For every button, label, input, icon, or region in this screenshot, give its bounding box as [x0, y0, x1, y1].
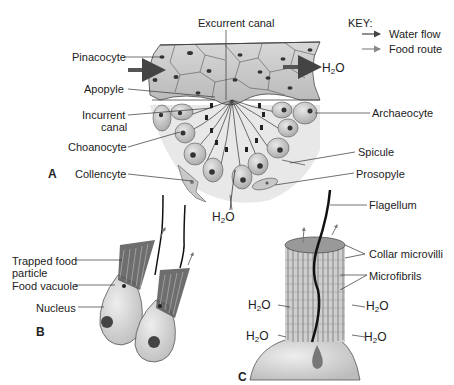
label-incurrent-canal-line1: Incurrent — [82, 109, 125, 121]
panel-b-illustration — [100, 195, 193, 362]
label-archaeocyte: Archaeocyte — [372, 107, 433, 119]
label-collar-microvilli: Collar microvilli — [369, 248, 443, 260]
label-h2o-c-right-upper: H2O — [366, 300, 388, 316]
sponge-diagram — [0, 0, 454, 385]
label-h2o-out: H2O — [322, 62, 344, 78]
key-food-route: Food route — [389, 43, 442, 55]
label-incurrent-canal-line2: canal — [101, 121, 127, 133]
label-spicule: Spicule — [358, 146, 394, 158]
label-nucleus: Nucleus — [36, 302, 76, 314]
panel-c-illustration — [250, 190, 360, 380]
label-choanocyte: Choanocyte — [68, 141, 127, 153]
label-h2o-c-left-upper: H2O — [248, 299, 270, 315]
panel-label-c: C — [238, 370, 247, 384]
label-microfibrils: Microfibrils — [369, 270, 422, 282]
panel-label-b: B — [36, 325, 45, 339]
label-flagellum: Flagellum — [369, 199, 417, 211]
key-water-flow: Water flow — [389, 28, 441, 40]
label-excurrent-canal: Excurrent canal — [198, 17, 274, 29]
label-pinacocyte: Pinacocyte — [72, 51, 126, 63]
label-apopyle: Apopyle — [84, 83, 124, 95]
label-h2o-c-left-lower: H2O — [246, 330, 268, 346]
key-title: KEY: — [348, 17, 372, 29]
panel-a-illustration — [128, 42, 320, 210]
label-collencyte: Collencyte — [75, 168, 126, 180]
label-h2o-c-right-lower: H2O — [364, 331, 386, 347]
label-trapped-food-line1: Trapped food — [12, 255, 77, 267]
label-trapped-food-line2: particle — [12, 267, 47, 279]
label-prosopyle: Prosopyle — [356, 168, 405, 180]
label-h2o-in: H2O — [212, 211, 234, 227]
label-food-vacuole: Food vacuole — [12, 280, 78, 292]
panel-label-a: A — [48, 167, 57, 181]
key-arrows — [362, 34, 380, 49]
